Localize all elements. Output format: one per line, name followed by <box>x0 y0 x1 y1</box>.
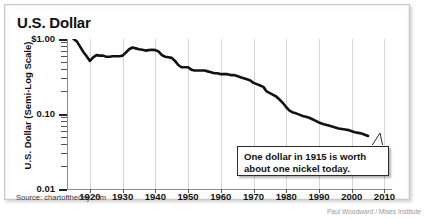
page-title: U.S. Dollar <box>17 14 91 31</box>
y-axis-title: U.S. Dollar (Semi-Log Scale) <box>22 31 33 181</box>
source-note: Source: chartoftheday.com <box>16 193 106 202</box>
credit-note: Paul Woodward / Mises Institute <box>327 208 421 215</box>
chart-frame: U.S. Dollar U.S. Dollar (Semi-Log Scale)… <box>4 4 410 200</box>
y-tick-label-010: 0.10 <box>13 108 55 119</box>
x-tick-label-2010: 2010 <box>364 191 404 202</box>
chart-screenshot: U.S. Dollar U.S. Dollar (Semi-Log Scale)… <box>0 0 427 224</box>
annotation-callout: One dollar in 1915 is worth about one ni… <box>237 146 389 176</box>
y-major-tick <box>59 114 67 116</box>
annotation-line-1: One dollar in 1915 is worth <box>244 151 366 162</box>
x-axis-line <box>67 189 392 190</box>
y-tick-label-100: $1.00 <box>13 33 55 44</box>
y-major-tick <box>59 189 67 191</box>
y-major-tick <box>59 39 67 41</box>
annotation-line-2: about one nickel today. <box>244 163 350 174</box>
annotation-callout-text: One dollar in 1915 is worth about one ni… <box>244 151 388 174</box>
